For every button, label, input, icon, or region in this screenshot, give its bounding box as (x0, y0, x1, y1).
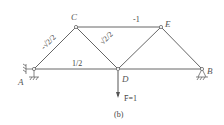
node-label-E: E (164, 19, 171, 29)
joint-C (74, 25, 77, 28)
force-label-AD: 1/2 (72, 59, 82, 68)
member-EB (161, 27, 202, 69)
force-label-CE: -1 (133, 15, 140, 24)
member-AC (34, 27, 76, 69)
load-label: F̄=1 (124, 94, 137, 103)
node-label-C: C (71, 12, 78, 22)
figure-caption: (b) (114, 110, 124, 119)
joint-D (116, 67, 119, 70)
node-label-A: A (17, 77, 24, 87)
truss-diagram: A C E D B -√2/2 -1 1/2 √2/2 F̄=1 (b) (0, 0, 224, 125)
node-label-D: D (121, 74, 129, 84)
joint-B (200, 67, 203, 70)
joint-A (32, 67, 35, 70)
joint-E (159, 25, 162, 28)
force-label-CD: √2/2 (98, 30, 115, 47)
member-DE (118, 27, 161, 69)
node-label-B: B (207, 66, 213, 76)
load-arrow-icon (116, 71, 120, 98)
